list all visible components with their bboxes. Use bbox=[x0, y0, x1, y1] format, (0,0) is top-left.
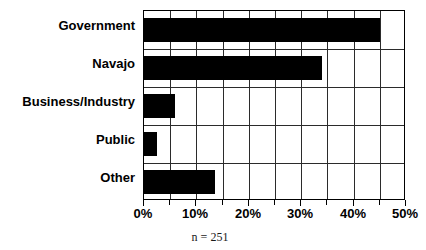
x-axis-tick-minor bbox=[169, 200, 170, 205]
bar-business-industry bbox=[144, 94, 175, 118]
x-axis-tick-label: 20% bbox=[218, 206, 278, 221]
y-axis-label-business-industry: Business/Industry bbox=[0, 95, 135, 109]
y-axis-label-public: Public bbox=[0, 133, 135, 147]
x-axis-tick-minor bbox=[326, 200, 327, 205]
bar-public bbox=[144, 132, 157, 156]
y-axis-label-navajo: Navajo bbox=[0, 57, 135, 71]
x-axis-tick-minor bbox=[274, 200, 275, 205]
y-axis-label-government: Government bbox=[0, 19, 135, 33]
chart-caption: n = 251 bbox=[150, 230, 270, 245]
bar-layer bbox=[144, 11, 404, 199]
x-axis-tick-minor bbox=[222, 200, 223, 205]
bar-navajo bbox=[144, 56, 322, 80]
x-axis-tick-minor bbox=[379, 200, 380, 205]
plot-area bbox=[143, 10, 405, 200]
x-axis-tick-label: 0% bbox=[113, 206, 173, 221]
y-axis-label-other: Other bbox=[0, 171, 135, 185]
x-axis-tick-label: 10% bbox=[165, 206, 225, 221]
bar-government bbox=[144, 18, 380, 42]
bar-chart: Government Navajo Business/Industry Publ… bbox=[0, 0, 426, 250]
x-axis-tick-label: 30% bbox=[270, 206, 330, 221]
bar-other bbox=[144, 170, 215, 194]
x-axis-tick-label: 50% bbox=[375, 206, 426, 221]
x-axis-tick-label: 40% bbox=[323, 206, 383, 221]
